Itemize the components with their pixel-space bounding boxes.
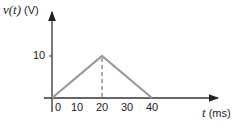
- x-tick-label-20: 20: [96, 101, 108, 113]
- x-tick-label-10: 10: [71, 101, 83, 113]
- y-tick-label-10: 10: [33, 49, 45, 61]
- x-tick-label-0: 0: [55, 101, 61, 113]
- x-tick-label-30: 30: [121, 101, 133, 113]
- x-tick-label-40: 40: [146, 101, 158, 113]
- y-axis-label: v(t) (V): [3, 2, 39, 18]
- x-axis-label: t (ms): [202, 105, 231, 121]
- triangle-pulse-line: [52, 56, 152, 98]
